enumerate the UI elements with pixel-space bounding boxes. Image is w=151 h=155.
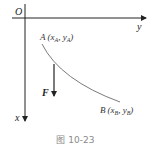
point-a-label: A(xA, yA) bbox=[39, 32, 73, 43]
origin-label: O bbox=[15, 6, 22, 17]
y-axis-label: y bbox=[136, 21, 142, 32]
x-axis-label: x bbox=[14, 112, 20, 123]
figure-caption: 图 10-23 bbox=[0, 133, 151, 146]
diagram-canvas: O y x F A(xA, yA) B(xB, yB) bbox=[0, 0, 151, 155]
point-b-label: B(xB, yB) bbox=[100, 105, 133, 116]
force-label: F bbox=[41, 87, 49, 98]
